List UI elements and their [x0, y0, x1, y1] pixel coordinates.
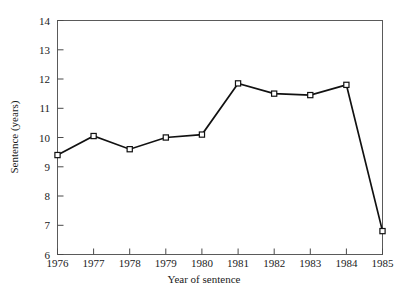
x-tick-label: 1984	[335, 257, 358, 269]
data-point-marker	[163, 135, 168, 140]
data-point-marker	[199, 132, 204, 137]
data-point-marker	[127, 147, 132, 152]
x-tick-label: 1985	[372, 257, 395, 269]
y-tick-label: 9	[45, 161, 51, 173]
data-series-line	[58, 83, 383, 231]
data-point-marker	[272, 91, 277, 96]
x-tick-label: 1981	[227, 257, 249, 269]
data-series-markers	[55, 81, 385, 234]
y-axis-tick-labels: 6 7 8 9 10 11 12 13 14	[39, 15, 51, 261]
x-axis-tick-labels: 1976 1977 1978 1979 1980 1981 1982 1983 …	[47, 257, 395, 269]
x-tick-label: 1982	[263, 257, 285, 269]
y-axis-ticks	[58, 21, 64, 255]
y-tick-label: 7	[45, 219, 51, 231]
y-tick-label: 10	[39, 132, 51, 144]
x-axis-title: Year of sentence	[168, 273, 241, 285]
x-tick-label: 1978	[119, 257, 142, 269]
data-point-marker	[235, 81, 240, 86]
y-tick-label: 12	[39, 73, 50, 85]
plot-frame	[58, 21, 383, 255]
y-tick-label: 8	[45, 190, 51, 202]
y-axis-title: Sentence (years)	[8, 100, 21, 173]
x-tick-label: 1980	[191, 257, 214, 269]
data-point-marker	[91, 133, 96, 138]
x-axis-ticks	[58, 249, 383, 255]
y-tick-label: 13	[39, 44, 51, 56]
x-tick-label: 1976	[47, 257, 70, 269]
data-point-marker	[344, 82, 349, 87]
x-tick-label: 1977	[83, 257, 106, 269]
chart-figure: 6 7 8 9 10 11 12 13 14 1976 1977	[0, 0, 408, 290]
data-point-marker	[380, 229, 385, 234]
y-tick-label: 11	[39, 102, 50, 114]
x-tick-label: 1983	[299, 257, 322, 269]
x-tick-label: 1979	[155, 257, 178, 269]
y-tick-label: 14	[39, 15, 51, 27]
line-chart: 6 7 8 9 10 11 12 13 14 1976 1977	[0, 0, 408, 290]
data-point-marker	[55, 152, 60, 157]
data-point-marker	[308, 92, 313, 97]
